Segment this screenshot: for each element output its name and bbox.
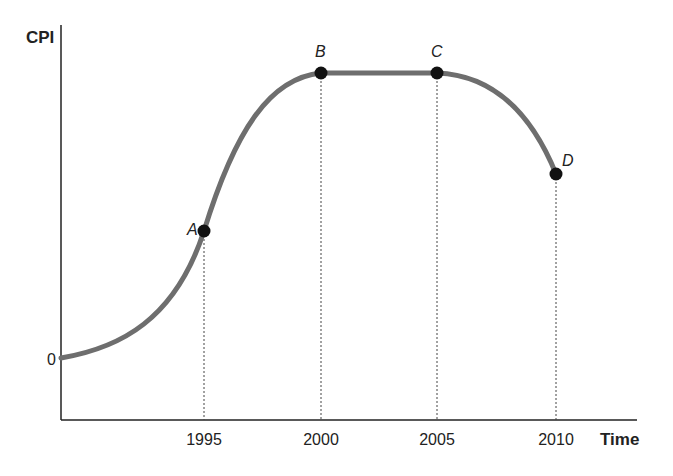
point-a bbox=[198, 225, 211, 238]
y-tick-zero: 0 bbox=[47, 351, 56, 368]
point-label-d: D bbox=[562, 152, 574, 169]
x-axis-label: Time bbox=[600, 430, 639, 449]
point-c bbox=[431, 67, 444, 80]
drop-lines bbox=[204, 73, 556, 420]
y-axis-label: CPI bbox=[26, 28, 54, 47]
x-tick-2005: 2005 bbox=[419, 431, 455, 448]
data-points bbox=[198, 67, 563, 238]
point-d bbox=[550, 168, 563, 181]
x-tick-2010: 2010 bbox=[538, 431, 574, 448]
point-label-b: B bbox=[315, 43, 326, 60]
x-tick-1995: 1995 bbox=[186, 431, 222, 448]
point-b bbox=[315, 67, 328, 80]
point-label-c: C bbox=[431, 43, 443, 60]
cpi-curve bbox=[61, 73, 556, 358]
cpi-chart: A B C D CPI 0 Time 1995 2000 2005 2010 bbox=[0, 0, 673, 476]
x-tick-2000: 2000 bbox=[303, 431, 339, 448]
point-label-a: A bbox=[186, 221, 198, 238]
